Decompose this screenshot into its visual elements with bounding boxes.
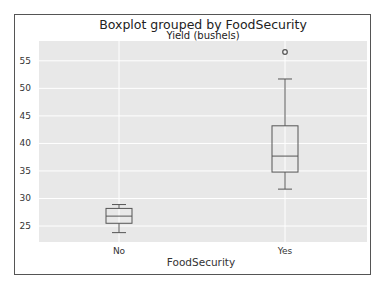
y-tick-label: 45 [20, 111, 31, 121]
y-axis-ticks: 25303540455055 [20, 56, 32, 231]
boxplot-chart: 25303540455055 NoYes Boxplot grouped by … [0, 0, 385, 290]
y-tick-label: 25 [20, 221, 31, 231]
chart-subtitle: Yield (bushels) [165, 30, 239, 41]
y-tick-label: 55 [20, 56, 31, 66]
y-tick-label: 30 [20, 193, 32, 203]
x-axis-label: FoodSecurity [167, 256, 235, 268]
x-tick-label: Yes [277, 246, 293, 256]
y-tick-label: 50 [20, 83, 32, 93]
plot-area [39, 41, 367, 242]
y-tick-label: 35 [20, 166, 31, 176]
x-tick-label: No [113, 246, 126, 256]
y-tick-label: 40 [20, 138, 32, 148]
x-axis-ticks: NoYes [113, 246, 293, 256]
